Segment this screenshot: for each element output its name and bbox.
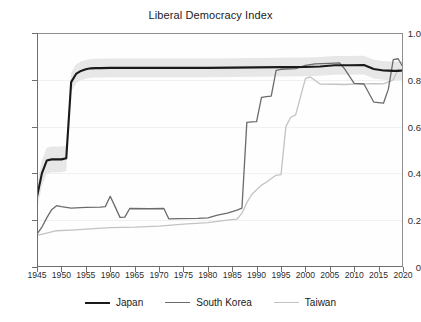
legend-line-swatch: [85, 302, 110, 304]
x-tick-mark: [354, 267, 355, 272]
legend-label: South Korea: [196, 297, 252, 308]
legend-label: Taiwan: [305, 297, 336, 308]
x-tick-mark: [379, 267, 380, 272]
legend-item-taiwan[interactable]: Taiwan: [274, 297, 336, 308]
x-tick-mark: [86, 267, 87, 272]
x-tick-mark: [110, 267, 111, 272]
x-tick-mark: [208, 267, 209, 272]
x-tick-mark: [135, 267, 136, 272]
x-tick-mark: [305, 267, 306, 272]
chart-title: Liberal Democracy Index: [0, 9, 421, 21]
legend-label: Japan: [116, 297, 143, 308]
x-tick-mark: [232, 267, 233, 272]
chart-legend: JapanSouth KoreaTaiwan: [0, 297, 421, 308]
confidence-band-japan: [37, 56, 403, 210]
x-tick-mark: [159, 267, 160, 272]
legend-line-swatch: [274, 302, 299, 303]
liberal-democracy-index-chart: Liberal Democracy Index 00.20.40.60.81.0…: [0, 0, 421, 322]
x-tick-mark: [281, 267, 282, 272]
x-tick-mark: [37, 267, 38, 272]
x-tick-mark: [330, 267, 331, 272]
series-line-south-korea: [37, 59, 403, 235]
legend-item-south-korea[interactable]: South Korea: [165, 297, 252, 308]
legend-line-swatch: [165, 302, 190, 303]
x-tick-mark: [183, 267, 184, 272]
x-tick-mark: [61, 267, 62, 272]
legend-item-japan[interactable]: Japan: [85, 297, 143, 308]
series-line-taiwan: [37, 69, 403, 235]
series-lines: [37, 33, 403, 267]
x-tick-mark: [403, 267, 404, 272]
x-tick-mark: [257, 267, 258, 272]
